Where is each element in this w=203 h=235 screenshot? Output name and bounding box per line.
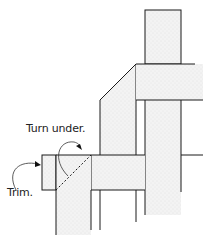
slanted-vertical-strip [100, 64, 136, 155]
upper-horizontal-strip [136, 64, 203, 100]
middle-horizontal-strip [91, 155, 145, 190]
tall-vertical-strip [145, 100, 181, 215]
turn-under-label: Turn under. [26, 122, 85, 135]
trim-flap [42, 155, 56, 190]
trim-label: Trim. [7, 186, 33, 199]
trim-arrowhead-icon [35, 161, 41, 167]
turn-under-arrowhead-icon [76, 144, 82, 150]
top-vertical-strip [145, 10, 181, 64]
weaving-diagram [0, 0, 203, 235]
